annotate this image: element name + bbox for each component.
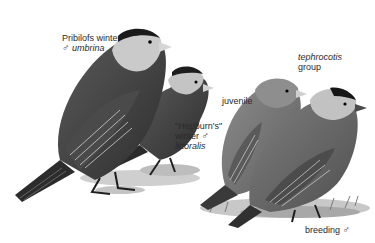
male-symbol-icon: ♂ xyxy=(343,224,351,235)
label-pribilofs-subspecies: umbrina xyxy=(72,43,105,53)
label-pribilofs: Pribilofs winter ♂ umbrina xyxy=(62,33,121,53)
label-pribilofs-line1: Pribilofs winter xyxy=(62,33,121,43)
male-symbol-icon: ♂ xyxy=(62,42,70,53)
label-hepburns-line2: winter xyxy=(175,131,199,141)
bird-illustration: Pribilofs winter ♂ umbrina "Hepburn's" w… xyxy=(0,0,375,243)
label-tephrocotis: tephrocotis group xyxy=(298,52,342,72)
label-hepburns-subspecies: littoralis xyxy=(175,141,222,151)
label-breeding: breeding ♂ xyxy=(305,225,350,235)
male-symbol-icon: ♂ xyxy=(202,130,210,141)
label-breeding-text: breeding xyxy=(305,225,340,235)
label-tephrocotis-subspecies: tephrocotis xyxy=(298,52,342,62)
label-hepburns-line1: "Hepburn's" xyxy=(175,121,222,131)
label-hepburns: "Hepburn's" winter ♂ littoralis xyxy=(175,121,222,151)
label-juvenile: juvenile xyxy=(222,96,253,106)
label-tephrocotis-line2: group xyxy=(298,62,342,72)
